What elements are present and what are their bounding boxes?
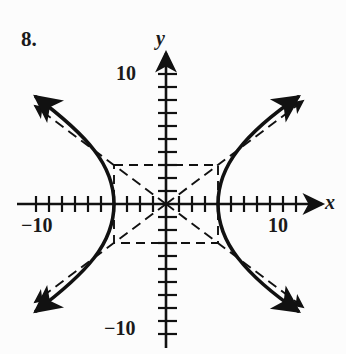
asymptote-positive-slope-lower-left xyxy=(35,204,166,302)
y-axis-label: y xyxy=(156,28,165,48)
asymptote-negative-slope-upper-left xyxy=(35,106,166,204)
x-axis-tick-label-neg10: −10 xyxy=(21,215,52,235)
y-axis-tick-label-neg10: −10 xyxy=(104,318,135,338)
problem-number: 8. xyxy=(21,29,37,50)
hyperbola-figure: 8. y x 10 −10 −10 10 xyxy=(0,0,346,354)
left-branch-upper xyxy=(36,97,114,204)
x-axis-tick-label-10: 10 xyxy=(268,215,288,235)
y-axis-tick-label-10: 10 xyxy=(116,63,136,83)
x-axis-label: x xyxy=(325,192,335,212)
coordinate-plot xyxy=(0,0,346,354)
